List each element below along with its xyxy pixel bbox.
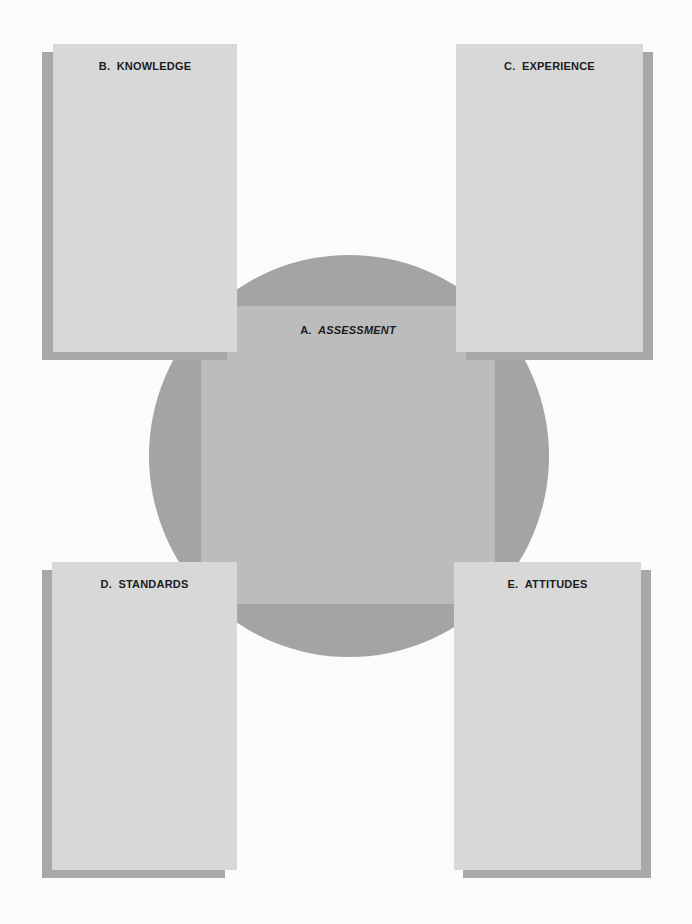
knowledge-letter: B. bbox=[99, 60, 110, 72]
assessment-panel: A. ASSESSMENT bbox=[201, 306, 495, 604]
knowledge-label: KNOWLEDGE bbox=[117, 60, 192, 72]
experience-title: C. EXPERIENCE bbox=[456, 60, 643, 72]
experience-label: EXPERIENCE bbox=[522, 60, 595, 72]
attitudes-box: E. ATTITUDES bbox=[454, 562, 641, 870]
attitudes-label: ATTITUDES bbox=[525, 578, 588, 590]
attitudes-letter: E. bbox=[507, 578, 518, 590]
assessment-label: ASSESSMENT bbox=[318, 324, 396, 336]
knowledge-box: B. KNOWLEDGE bbox=[53, 44, 237, 352]
knowledge-title: B. KNOWLEDGE bbox=[53, 60, 237, 72]
standards-box: D. STANDARDS bbox=[52, 562, 237, 870]
experience-box: C. EXPERIENCE bbox=[456, 44, 643, 352]
assessment-title: A. ASSESSMENT bbox=[201, 324, 495, 336]
standards-letter: D. bbox=[101, 578, 112, 590]
assessment-letter: A. bbox=[300, 324, 311, 336]
attitudes-title: E. ATTITUDES bbox=[454, 578, 641, 590]
standards-label: STANDARDS bbox=[118, 578, 188, 590]
experience-letter: C. bbox=[504, 60, 515, 72]
standards-title: D. STANDARDS bbox=[52, 578, 237, 590]
